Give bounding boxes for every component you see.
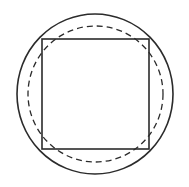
inscribed-square [42,39,149,149]
dashed-circle [28,26,163,162]
circle-square-diagram [0,0,189,187]
